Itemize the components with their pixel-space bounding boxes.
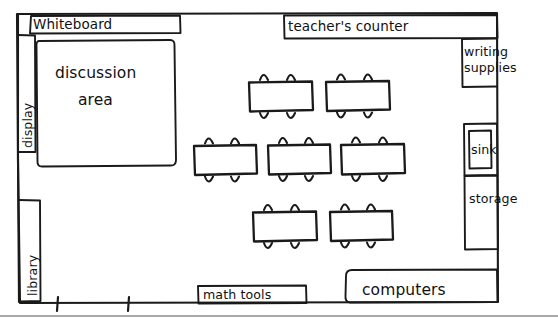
zone-library-label: library: [25, 254, 40, 296]
zone-computers[interactable]: computers: [345, 270, 497, 303]
zone-writing-supplies-label-line2: supplies: [464, 60, 517, 75]
desk-unit[interactable]: [268, 138, 331, 181]
zone-discussion-area-label-line2: area: [78, 91, 113, 109]
zone-writing-supplies[interactable]: writing supplies: [462, 39, 517, 88]
desk-group-front-row: [253, 205, 393, 249]
zone-display[interactable]: display: [18, 35, 36, 152]
desk-unit[interactable]: [194, 139, 257, 182]
zone-sink-label: sink: [471, 142, 497, 157]
zone-math-tools-label: math tools: [203, 287, 271, 302]
zone-discussion-area[interactable]: discussion area: [36, 40, 176, 167]
doorway-marks: [57, 297, 129, 311]
classroom-floor-plan: Whiteboard teacher's counter display lib…: [0, 0, 558, 327]
zone-library[interactable]: library: [19, 200, 41, 302]
zone-math-tools[interactable]: math tools: [198, 286, 307, 304]
zone-teachers-counter[interactable]: teacher's counter: [284, 15, 498, 39]
zone-storage-label: storage: [469, 191, 518, 206]
zone-discussion-area-label-line1: discussion: [55, 64, 136, 82]
zone-whiteboard-label: Whiteboard: [33, 16, 112, 32]
zone-computers-label: computers: [362, 281, 446, 299]
desk-unit[interactable]: [253, 205, 317, 248]
zone-display-label: display: [20, 102, 35, 148]
zone-storage[interactable]: storage: [465, 176, 518, 250]
desk-unit[interactable]: [330, 205, 393, 248]
desk-unit[interactable]: [341, 138, 405, 182]
desk-unit[interactable]: [249, 75, 313, 118]
zone-whiteboard[interactable]: Whiteboard: [30, 16, 181, 34]
zone-teachers-counter-label: teacher's counter: [288, 18, 409, 34]
zone-sink[interactable]: sink: [464, 124, 498, 176]
desk-group-middle-row: [194, 138, 405, 182]
desk-group-back-row: [249, 75, 390, 119]
desk-unit[interactable]: [326, 75, 390, 118]
zone-writing-supplies-label-line1: writing: [464, 44, 508, 59]
